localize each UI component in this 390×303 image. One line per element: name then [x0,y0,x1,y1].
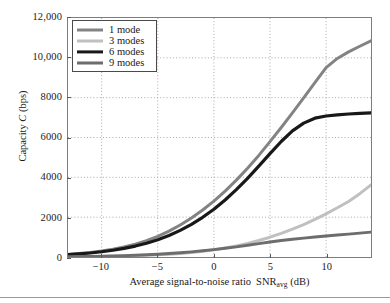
x-axis-title-unit: (dB) [290,276,309,287]
x-tick-label: −5 [137,261,177,273]
legend-item[interactable]: 9 modes [76,57,152,68]
legend-line-swatch [76,46,104,57]
x-tick-mark [214,254,215,258]
x-axis-title-symbol: SNR [256,276,276,287]
x-tick-label: 0 [194,261,234,273]
x-tick-label: 10 [307,261,347,273]
page-divider [0,297,390,298]
x-tick-label: 5 [250,261,290,273]
y-tick-mark [67,218,71,219]
y-tick-mark [67,57,71,58]
x-axis-title: Average signal-to-noise ratioSNRavg (dB) [67,276,372,291]
y-tick-mark [67,178,71,179]
legend-line-swatch [76,35,104,46]
y-tick-mark [67,138,71,139]
chart-legend: 1 mode3 modes6 modes9 modes [72,20,157,72]
x-axis-ticks: −10−50510 [0,0,390,303]
y-tick-mark [67,17,71,18]
legend-item-label: 6 modes [104,46,144,57]
x-tick-mark [327,254,328,258]
legend-item[interactable]: 6 modes [76,46,152,57]
legend-item-label: 3 modes [104,35,144,46]
y-tick-mark [67,258,71,259]
x-axis-title-main: Average signal-to-noise ratio [129,276,251,287]
x-tick-mark [157,254,158,258]
legend-item-label: 1 mode [104,24,140,35]
legend-line-swatch [76,57,104,68]
x-tick-mark [270,254,271,258]
figure-canvas: 0200040006000800010,00012,000 Capacity C… [0,0,390,303]
y-tick-mark [67,97,71,98]
x-tick-label: −10 [81,261,121,273]
legend-item[interactable]: 3 modes [76,35,152,46]
x-tick-mark [101,254,102,258]
legend-line-swatch [76,24,104,35]
legend-item-label: 9 modes [104,57,144,68]
x-axis-title-subscript: avg [277,280,288,289]
legend-item[interactable]: 1 mode [76,24,152,35]
